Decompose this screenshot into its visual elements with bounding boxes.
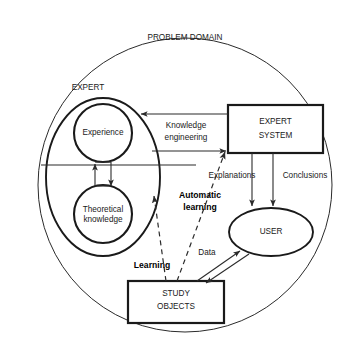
study-objects-label-line2: OBJECTS [157,302,195,311]
expert-system-label-line1: EXPERT [259,117,292,126]
data-label: Data [198,248,216,257]
automatic-learning-label-line1: Automatic [179,190,221,200]
automatic-learning-label-line2: learning [183,202,216,212]
knowledge-engineering-label-line1: Knowledge [166,121,207,130]
diagram-canvas: PROBLEM DOMAIN EXPERT Experience Theoret… [0,0,358,358]
expert-label: EXPERT [72,83,105,92]
problem-domain-label: PROBLEM DOMAIN [147,33,222,42]
theoretical-knowledge-label-line2: knowledge [83,215,123,224]
user-label: USER [260,227,283,236]
data-arrow-to-study-objects [206,254,249,283]
study-objects-label-line1: STUDY [162,289,190,298]
expert-system-node [228,105,323,153]
experience-label: Experience [83,128,124,137]
expert-system-diagram: PROBLEM DOMAIN EXPERT Experience Theoret… [0,0,358,358]
conclusions-label: Conclusions [283,171,328,180]
expert-system-label-line2: SYSTEM [259,131,293,140]
learning-label: Learning [134,260,170,270]
theoretical-knowledge-label-line1: Theoretical [83,205,124,214]
knowledge-engineering-label-line2: engineering [165,133,208,142]
